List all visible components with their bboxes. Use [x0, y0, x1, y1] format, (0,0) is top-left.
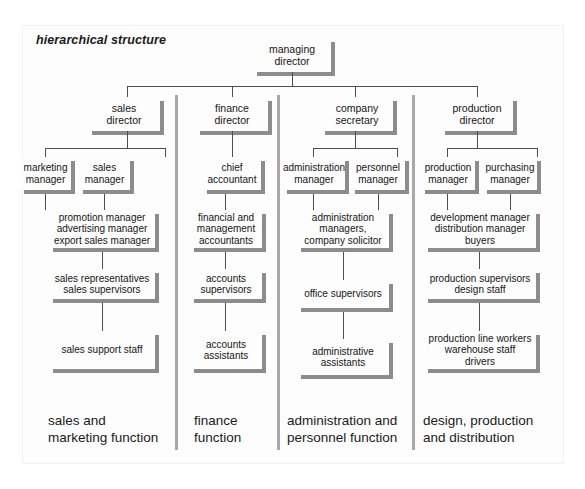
node-label: managing director: [269, 43, 315, 67]
node-administration-manager: administration manager: [283, 157, 345, 190]
node-label: personnel manager: [356, 162, 400, 185]
connector-c4-manager-drop-1: [447, 148, 448, 157]
node-production-director: production director: [441, 97, 513, 131]
function-label-administration-and-personnel: administration and personnel function: [287, 412, 422, 446]
node-c4-level-1: development manager distribution manager…: [424, 210, 536, 248]
node-label: administrative assistants: [312, 346, 374, 369]
column-divider-1: [175, 95, 178, 450]
node-label: company secretary: [335, 102, 378, 126]
node-label: sales manager: [85, 162, 124, 185]
figure-title: hierarchical structure: [36, 33, 166, 47]
node-c1-level-3: sales support staff: [49, 331, 155, 369]
node-label: promotion manager advertising manager ex…: [54, 212, 150, 247]
node-c2-level-3: accounts assistants: [190, 331, 262, 369]
node-production-manager: production manager: [421, 157, 475, 190]
connector-c3-manager-drop-2: [397, 148, 398, 157]
hierarchical-structure-diagram: hierarchical structure managing director…: [0, 0, 585, 489]
connector-c2-level1-stem: [225, 252, 226, 269]
node-c4-level-3: production line workers warehouse staff …: [424, 331, 536, 369]
connector-c3-level2-stem: [343, 312, 344, 339]
connector-c1-director-stem: [127, 131, 128, 148]
node-c1-level-1: promotion manager advertising manager ex…: [49, 210, 155, 248]
connector-bus-drop-1: [127, 86, 128, 97]
node-label: chief accountant: [208, 162, 257, 185]
node-label: accounts supervisors: [200, 273, 251, 296]
node-finance-director: finance director: [196, 97, 268, 131]
connector-c3-personnel-drop: [378, 194, 379, 210]
node-label: sales director: [106, 102, 141, 126]
connector-c4-level1-stem: [479, 252, 480, 269]
connector-c2-director-stem: [232, 131, 233, 157]
node-chief-accountant: chief accountant: [203, 157, 261, 190]
connector-c4-manager-drop-2: [537, 148, 538, 157]
connector-c1-sales-drop: [104, 194, 105, 210]
connector-c1-marketing-drop: [45, 194, 46, 210]
node-c3-level-1: administration managers, company solicit…: [297, 210, 389, 248]
node-label: purchasing manager: [486, 162, 535, 185]
node-label: development manager distribution manager…: [430, 212, 530, 247]
connector-c1-manager-bus: [45, 148, 165, 149]
connector-bus-drop-4: [477, 86, 478, 97]
connector-c4-production-drop: [447, 194, 448, 210]
column-divider-2: [277, 95, 280, 450]
node-label: production line workers warehouse staff …: [429, 333, 532, 368]
connector-c2-manager-drop: [225, 194, 226, 210]
column-divider-3: [412, 95, 415, 450]
node-c4-level-2: production supervisors design staff: [424, 269, 536, 299]
node-managing-director: managing director: [253, 38, 331, 72]
node-label: financial and management accountants: [197, 212, 255, 247]
connector-c4-director-stem: [477, 131, 478, 148]
node-c2-level-2: accounts supervisors: [190, 269, 262, 299]
node-label: administration manager: [283, 162, 345, 185]
node-label: production supervisors design staff: [430, 273, 531, 296]
connector-c1-manager-drop-1: [45, 148, 46, 157]
function-label-finance: finance function: [194, 412, 274, 446]
connector-c4-purchasing-drop: [510, 194, 511, 210]
connector-main-bus: [127, 86, 478, 87]
node-label: accounts assistants: [204, 339, 248, 362]
node-label: marketing manager: [24, 162, 68, 185]
connector-c1-level1-stem: [102, 252, 103, 269]
node-company-secretary: company secretary: [321, 97, 393, 131]
connector-c3-admin-drop: [313, 194, 314, 210]
function-label-design-production-and-distribution: design, production and distribution: [423, 412, 563, 446]
connector-c1-level2-stem: [102, 303, 103, 331]
node-purchasing-manager: purchasing manager: [483, 157, 537, 190]
connector-c3-director-stem: [355, 131, 356, 148]
connector-c3-manager-drop-1: [313, 148, 314, 157]
node-c2-level-1: financial and management accountants: [190, 210, 262, 248]
node-sales-director: sales director: [88, 97, 160, 131]
connector-c4-manager-bus: [447, 148, 537, 149]
node-c3-level-2: office supervisors: [297, 280, 389, 308]
node-label: administration managers, company solicit…: [304, 212, 381, 247]
node-label: production director: [452, 102, 501, 126]
connector-c2-level2-stem: [225, 303, 226, 331]
node-label: sales support staff: [62, 344, 143, 356]
function-label-sales-and-marketing: sales and marketing function: [48, 412, 173, 446]
node-label: sales representatives sales supervisors: [55, 273, 150, 296]
connector-bus-drop-2: [232, 86, 233, 97]
node-c1-level-2: sales representatives sales supervisors: [49, 269, 155, 299]
node-sales-manager: sales manager: [79, 157, 130, 190]
connector-c1-manager-drop-2: [165, 148, 166, 157]
connector-c3-manager-bus: [313, 148, 397, 149]
connector-c4-level2-stem: [479, 303, 480, 331]
connector-bus-drop-3: [355, 86, 356, 97]
node-label: finance director: [214, 102, 249, 126]
node-marketing-manager: marketing manager: [20, 157, 71, 190]
node-label: office supervisors: [304, 288, 382, 300]
node-personnel-manager: personnel manager: [351, 157, 405, 190]
node-c3-level-3: administrative assistants: [297, 339, 389, 375]
connector-root-stem: [292, 72, 293, 86]
connector-c3-level1-stem: [343, 252, 344, 280]
node-label: production manager: [425, 162, 472, 185]
